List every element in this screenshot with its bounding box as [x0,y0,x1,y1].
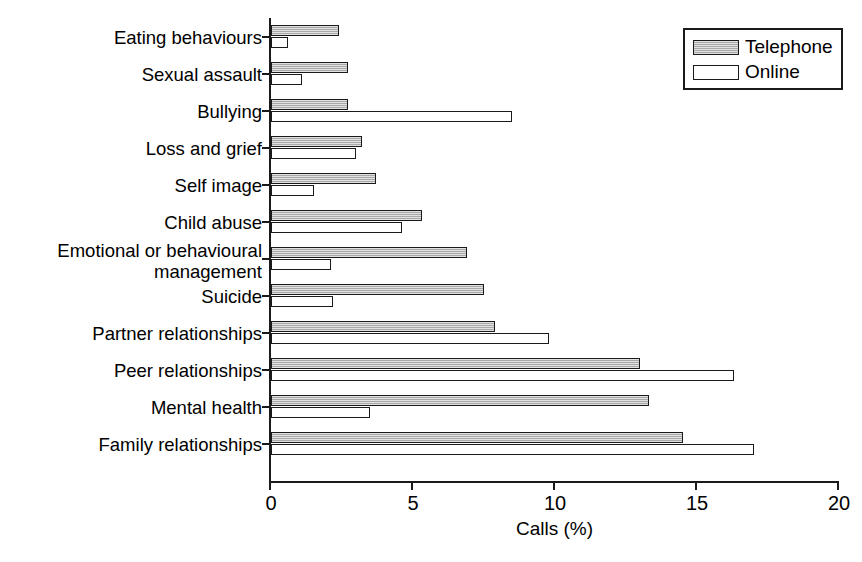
chart-row: Bullying [0,92,862,129]
legend-swatch-telephone-icon [693,40,739,55]
category-label: Eating behaviours [0,27,262,48]
y-tick [262,258,271,260]
legend-item-telephone: Telephone [693,36,833,58]
x-tick-15 [695,481,697,490]
category-label: Partner relationships [0,323,262,344]
bar-telephone [271,358,640,369]
category-label: Self image [0,175,262,196]
bar-telephone [271,395,649,406]
x-tick-label-5: 5 [383,491,443,515]
bar-online [271,407,370,418]
chart-row: Family relationships [0,425,862,462]
bar-online [271,74,302,85]
bar-online [271,222,402,233]
category-label: Loss and grief [0,138,262,159]
x-tick-label-10: 10 [525,491,585,515]
x-tick-label-0: 0 [241,491,301,515]
bar-telephone [271,284,484,295]
bar-online [271,259,331,270]
bar-telephone [271,173,376,184]
bar-online [271,185,314,196]
category-label: Mental health [0,397,262,418]
x-tick-0 [269,481,271,490]
bar-chart: 05101520 Calls (%) Eating behavioursSexu… [0,0,862,562]
y-tick [262,369,271,371]
x-tick-label-15: 15 [667,491,727,515]
legend-item-online: Online [693,61,800,83]
bar-telephone [271,247,467,258]
category-label: Family relationships [0,434,262,455]
x-tick-20 [837,481,839,490]
bar-online [271,444,754,455]
y-tick [262,73,271,75]
category-label: Child abuse [0,212,262,233]
category-label: Suicide [0,286,262,307]
chart-row: Mental health [0,388,862,425]
bar-telephone [271,99,348,110]
y-tick [262,406,271,408]
x-tick-5 [411,481,413,490]
bar-online [271,37,288,48]
chart-row: Suicide [0,277,862,314]
chart-row: Peer relationships [0,351,862,388]
x-tick-10 [553,481,555,490]
y-tick [262,295,271,297]
category-label: Sexual assault [0,64,262,85]
y-tick [262,110,271,112]
legend-swatch-online-icon [693,65,739,80]
bar-telephone [271,62,348,73]
y-tick [262,221,271,223]
category-label: Peer relationships [0,360,262,381]
bar-telephone [271,136,362,147]
chart-row: Loss and grief [0,129,862,166]
bar-online [271,333,549,344]
chart-row: Self image [0,166,862,203]
x-tick-label-20: 20 [809,491,862,515]
y-tick [262,443,271,445]
category-label: Bullying [0,101,262,122]
chart-row: Child abuse [0,203,862,240]
y-tick [262,147,271,149]
legend-label-online: Online [745,62,800,82]
bar-online [271,111,512,122]
y-tick [262,36,271,38]
y-tick [262,332,271,334]
y-tick [262,184,271,186]
bar-telephone [271,321,495,332]
legend-label-telephone: Telephone [745,37,833,57]
bar-telephone [271,210,422,221]
chart-row: Emotional or behavioural management [0,240,862,277]
category-label: Emotional or behavioural management [0,240,262,282]
chart-legend: Telephone Online [683,28,843,90]
bar-online [271,148,356,159]
bar-online [271,296,333,307]
bar-telephone [271,432,683,443]
bar-online [271,370,734,381]
chart-row: Partner relationships [0,314,862,351]
x-axis-title: Calls (%) [270,518,839,540]
bar-telephone [271,25,339,36]
